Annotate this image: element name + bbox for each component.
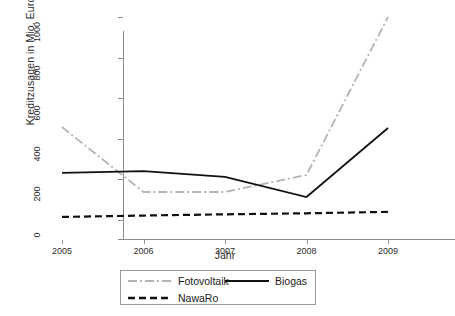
series-line-fotovoltaik: [62, 17, 388, 192]
chart-legend: FotovoltaikNawaRoBiogas: [120, 270, 316, 305]
legend-key-icon: [127, 293, 173, 303]
legend-label: Fotovoltaik: [178, 275, 229, 287]
legend-label: Biogas: [275, 275, 307, 287]
legend-item-nawaro[interactable]: NawaRo: [127, 289, 218, 306]
legend-label: NawaRo: [178, 292, 218, 304]
series-line-nawaro: [62, 212, 388, 217]
series-line-biogas: [62, 128, 388, 197]
legend-item-biogas[interactable]: Biogas: [224, 272, 307, 289]
legend-key-icon: [224, 276, 270, 286]
legend-key-icon: [127, 276, 173, 286]
legend-item-fotovoltaik[interactable]: Fotovoltaik: [127, 272, 229, 289]
